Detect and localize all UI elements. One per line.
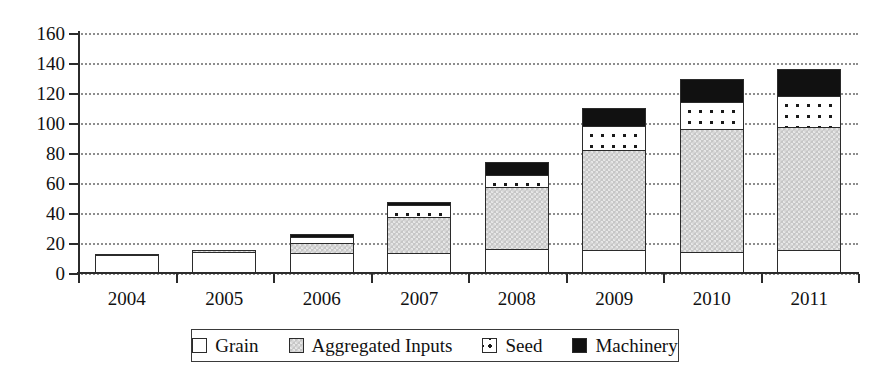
x-axis-label-2004: 2004 — [108, 288, 146, 310]
bar-group-2004 — [95, 254, 159, 273]
x-axis-labels: 20042005200620072008200920102011 — [78, 274, 858, 314]
chart-legend: GrainAggregated InputsSeedMachinery — [191, 329, 679, 362]
bar-segment-machinery — [680, 79, 744, 103]
y-axis-label: 40 — [46, 204, 65, 223]
y-axis-tick — [69, 213, 78, 215]
stacked-bar-chart: 020406080100120140160 200420052006200720… — [0, 0, 870, 379]
bar-segment-grain — [582, 250, 646, 274]
bar-segment-seed — [680, 102, 744, 131]
legend-label: Machinery — [595, 336, 677, 355]
y-axis-label: 100 — [37, 114, 66, 133]
bar-segment-aggregated-inputs — [485, 187, 549, 250]
bar-segment-aggregated-inputs — [387, 217, 451, 255]
bar-segment-aggregated-inputs — [680, 129, 744, 254]
bar-segment-machinery — [582, 108, 646, 128]
x-axis-tick — [78, 274, 80, 283]
legend-item-grain[interactable]: Grain — [192, 336, 258, 355]
x-axis-tick — [371, 274, 373, 283]
x-axis-label-2009: 2009 — [595, 288, 633, 310]
y-axis-tick — [69, 123, 78, 125]
x-axis-tick — [858, 274, 860, 283]
bar-group-2008 — [485, 162, 549, 273]
y-axis-tick — [69, 33, 78, 35]
y-axis-label: 20 — [46, 234, 65, 253]
y-axis-tick — [69, 243, 78, 245]
x-axis-label-2006: 2006 — [303, 288, 341, 310]
bar-group-2006 — [290, 234, 354, 273]
bar-segment-aggregated-inputs — [582, 150, 646, 252]
bar-segment-machinery — [777, 69, 841, 98]
legend-item-machinery[interactable]: Machinery — [572, 336, 677, 355]
x-axis-label-2007: 2007 — [400, 288, 438, 310]
legend-label: Seed — [505, 336, 542, 355]
x-axis-tick — [761, 274, 763, 283]
x-axis-tick — [468, 274, 470, 283]
y-axis-label: 140 — [37, 54, 66, 73]
bar-group-2009 — [582, 108, 646, 273]
bar-series-layer — [78, 33, 858, 273]
bar-group-2005 — [192, 250, 256, 273]
x-axis-tick — [273, 274, 275, 283]
bar-segment-grain — [485, 249, 549, 275]
bar-segment-aggregated-inputs — [777, 127, 841, 252]
y-axis-label: 160 — [37, 24, 66, 43]
plot-area: 020406080100120140160 — [78, 33, 858, 273]
legend-label: Aggregated Inputs — [312, 336, 453, 355]
x-axis-label-2010: 2010 — [693, 288, 731, 310]
y-axis-label: 60 — [46, 174, 65, 193]
x-axis-tick — [566, 274, 568, 283]
x-axis-label-2011: 2011 — [791, 288, 828, 310]
x-axis-label-2005: 2005 — [205, 288, 243, 310]
y-axis-tick — [69, 63, 78, 65]
y-axis-tick — [69, 93, 78, 95]
dotted-square-icon — [482, 338, 497, 353]
legend-item-aggregated-inputs[interactable]: Aggregated Inputs — [289, 336, 453, 355]
gray-square-icon — [289, 338, 304, 353]
x-axis-tick — [176, 274, 178, 283]
legend-label: Grain — [215, 336, 258, 355]
y-axis-label: 80 — [46, 144, 65, 163]
x-axis-tick — [663, 274, 665, 283]
y-axis-line — [78, 31, 80, 275]
legend-item-seed[interactable]: Seed — [482, 336, 542, 355]
x-axis-label-2008: 2008 — [498, 288, 536, 310]
black-square-icon — [572, 338, 587, 353]
bar-segment-seed — [582, 126, 646, 152]
white-square-icon — [192, 338, 207, 353]
bar-segment-seed — [777, 96, 841, 129]
bar-group-2010 — [680, 79, 744, 273]
bar-group-2007 — [387, 202, 451, 273]
y-axis-tick — [69, 183, 78, 185]
y-axis-label: 0 — [56, 264, 66, 283]
bar-segment-grain — [777, 250, 841, 274]
y-axis-tick — [69, 153, 78, 155]
y-axis-label: 120 — [37, 84, 66, 103]
bar-group-2011 — [777, 69, 841, 273]
